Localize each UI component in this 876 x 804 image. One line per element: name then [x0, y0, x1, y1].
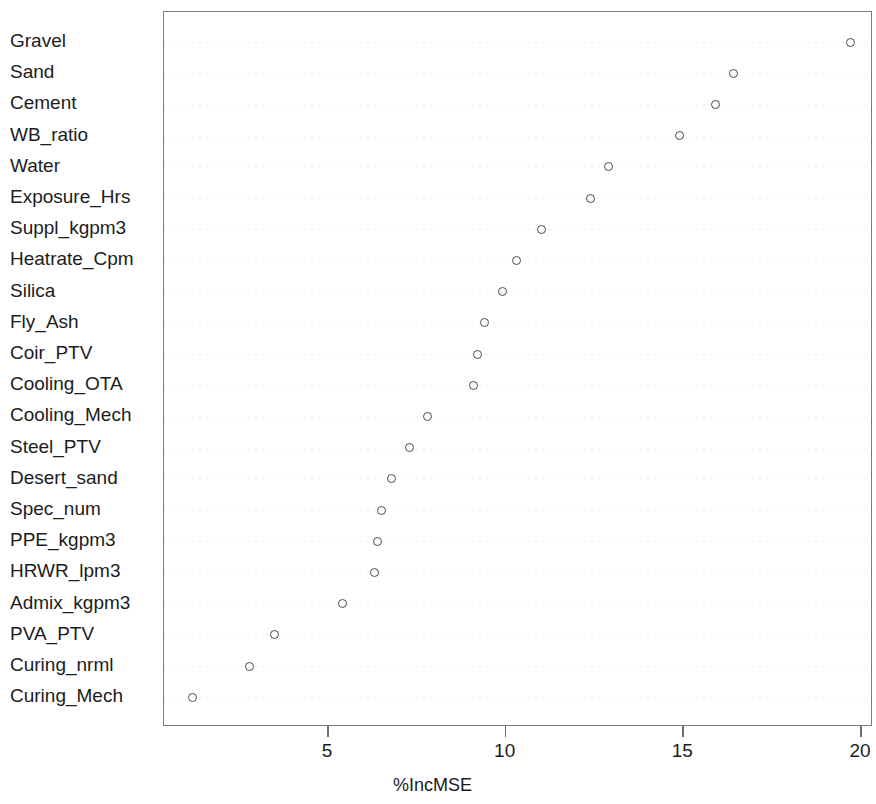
y-axis-label: Suppl_kgpm3	[10, 218, 126, 237]
x-tick-label: 15	[672, 740, 693, 761]
data-point	[245, 662, 254, 671]
data-point	[373, 537, 382, 546]
y-axis-label: Curing_nrml	[10, 655, 113, 674]
y-axis-label: Steel_PTV	[10, 437, 101, 456]
gridline	[164, 136, 871, 137]
y-axis-label: Admix_kgpm3	[10, 593, 130, 612]
gridline	[164, 292, 871, 293]
y-axis-label: Water	[10, 156, 60, 175]
data-point	[370, 568, 379, 577]
variable-importance-dot-chart: GravelSandCementWB_ratioWaterExposure_Hr…	[0, 0, 876, 804]
gridline	[164, 666, 871, 667]
data-point	[377, 506, 386, 515]
y-axis-label: Gravel	[10, 31, 66, 50]
plot-area	[163, 11, 872, 726]
x-axis-title: %IncMSE	[163, 775, 872, 795]
gridline	[164, 572, 871, 573]
y-axis-label: Coir_PTV	[10, 343, 92, 362]
y-axis-label: Cooling_OTA	[10, 374, 123, 393]
gridline	[164, 323, 871, 324]
gridline	[164, 229, 871, 230]
gridline	[164, 416, 871, 417]
data-point	[469, 381, 478, 390]
y-axis-label: Heatrate_Cpm	[10, 249, 134, 268]
y-axis-label: PVA_PTV	[10, 624, 94, 643]
data-point	[473, 350, 482, 359]
gridline	[164, 697, 871, 698]
y-axis-label: Desert_sand	[10, 468, 118, 487]
data-point	[188, 693, 197, 702]
data-point	[423, 412, 432, 421]
data-point	[512, 256, 521, 265]
data-point	[846, 38, 855, 47]
y-axis-category-labels: GravelSandCementWB_ratioWaterExposure_Hr…	[0, 0, 158, 726]
y-axis-label: Fly_Ash	[10, 312, 79, 331]
gridline	[164, 104, 871, 105]
gridline	[164, 604, 871, 605]
y-axis-label: Exposure_Hrs	[10, 187, 130, 206]
data-point	[711, 100, 720, 109]
gridline	[164, 42, 871, 43]
y-axis-label: HRWR_lpm3	[10, 561, 121, 580]
y-axis-label: Spec_num	[10, 499, 101, 518]
x-tick-mark	[860, 726, 862, 737]
y-axis-label: Cooling_Mech	[10, 405, 131, 424]
data-point	[338, 599, 347, 608]
x-tick-label: 20	[849, 740, 870, 761]
data-point	[586, 194, 595, 203]
y-axis-label: Silica	[10, 281, 55, 300]
gridline	[164, 354, 871, 355]
data-point	[270, 630, 279, 639]
y-axis-label: Curing_Mech	[10, 686, 123, 705]
x-tick-mark	[682, 726, 684, 737]
gridline	[164, 73, 871, 74]
data-point	[729, 69, 738, 78]
data-point	[480, 318, 489, 327]
gridline	[164, 479, 871, 480]
gridline	[164, 167, 871, 168]
x-tick-mark	[327, 726, 329, 737]
gridline	[164, 541, 871, 542]
x-tick-label: 5	[322, 740, 333, 761]
data-point	[405, 443, 414, 452]
data-point	[498, 287, 507, 296]
x-tick-label: 10	[494, 740, 515, 761]
y-axis-label: PPE_kgpm3	[10, 530, 116, 549]
y-axis-label: Cement	[10, 93, 77, 112]
gridline	[164, 510, 871, 511]
data-point	[537, 225, 546, 234]
gridline	[164, 198, 871, 199]
x-axis: 5101520 %IncMSE	[163, 726, 872, 804]
x-tick-mark	[505, 726, 507, 737]
y-axis-label: Sand	[10, 62, 54, 81]
gridline	[164, 448, 871, 449]
data-point	[387, 474, 396, 483]
gridline	[164, 385, 871, 386]
y-axis-label: WB_ratio	[10, 125, 88, 144]
x-axis-title-text: %IncMSE	[393, 775, 472, 795]
data-point	[604, 162, 613, 171]
data-point	[675, 131, 684, 140]
